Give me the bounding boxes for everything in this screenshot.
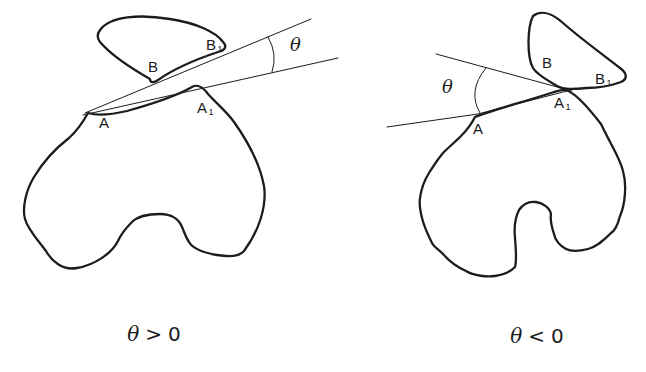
- right-angle-theta-label: θ: [442, 76, 453, 97]
- right-angle-arc: [475, 68, 486, 113]
- left-angle-arc: [268, 37, 274, 72]
- right-label-B: B: [542, 54, 554, 72]
- left-label-B1-sub: 1: [218, 44, 224, 54]
- left-lower-bone-outline: [24, 86, 265, 269]
- right-label-A: A: [473, 120, 485, 138]
- left-label-A-text: A: [99, 114, 110, 131]
- right-label-A-text: A: [473, 120, 484, 137]
- right-label-B1-sub: 1: [607, 78, 613, 88]
- left-caption-symbol: θ: [127, 322, 139, 346]
- left-label-A1-text: A: [197, 99, 208, 116]
- left-label-A1: A1: [197, 99, 214, 117]
- right-label-B1: B1: [595, 70, 612, 88]
- left-caption-relation: >: [145, 322, 162, 346]
- right-caption-theta-negative: θ<0: [492, 324, 582, 348]
- right-label-B-text: B: [542, 54, 553, 71]
- right-label-B1-text: B: [595, 70, 606, 87]
- left-angle-theta-label: θ: [290, 34, 301, 55]
- right-caption-value: 0: [551, 324, 564, 348]
- right-caption-relation: <: [528, 324, 545, 348]
- right-label-A1-sub: 1: [566, 102, 572, 112]
- right-label-A1: A1: [554, 94, 571, 112]
- left-label-B: B: [148, 58, 160, 76]
- right-label-A1-text: A: [554, 94, 565, 111]
- left-caption-value: 0: [168, 322, 181, 346]
- left-label-B-text: B: [148, 58, 159, 75]
- figure-joint-contact-angle: B B1 A A1 θ θ>0 B B1 A A1 θ θ<0: [0, 0, 646, 372]
- left-label-B1: B1: [206, 36, 223, 54]
- right-caption-symbol: θ: [510, 324, 522, 348]
- left-label-A1-sub: 1: [209, 107, 215, 117]
- left-caption-theta-positive: θ>0: [109, 322, 199, 346]
- left-label-A: A: [99, 114, 111, 132]
- left-label-B1-text: B: [206, 36, 217, 53]
